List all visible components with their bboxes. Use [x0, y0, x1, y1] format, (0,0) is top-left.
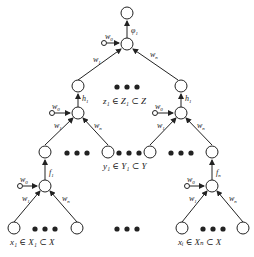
mid-left-bias-node [50, 111, 55, 116]
label-mid-left-w0: w0 [52, 102, 60, 112]
label-mid-right-w1: w1 [157, 121, 165, 131]
ellipsis-bottom-center [114, 226, 139, 231]
label-top-w0: w0 [105, 32, 113, 42]
ellipsis-mid-center [116, 150, 141, 155]
ellipsis-mid-right [168, 150, 193, 155]
ellipsis-bottom-left [32, 226, 57, 231]
l3-node-4 [206, 146, 218, 158]
top-bias-node [102, 41, 107, 46]
label-bottom-left-wn: wn [62, 194, 70, 204]
label-z-set: z₁ ∈ Z₁ ⊂ Z [102, 96, 147, 106]
label-y-set: y₁ ∈ Y₁ ⊂ Y [102, 161, 147, 171]
label-mid-left-wn: wn [94, 121, 102, 131]
input-node-right-2 [237, 222, 249, 234]
label-mid-right-wn: wn [197, 121, 205, 131]
mid-right-neuron [175, 107, 187, 119]
ellipsis-top [114, 84, 139, 89]
top-neuron [121, 38, 133, 50]
ellipsis-bottom-right [200, 226, 225, 231]
bottom-right-bias-node [185, 184, 190, 189]
input-node-right-1 [176, 222, 188, 234]
bottom-left-bias-node [18, 184, 23, 189]
label-bottom-left-w0: w0 [20, 175, 28, 185]
label-bottom-right-f: fn [216, 168, 221, 178]
network-diagram: φ1 w0 w1 wn h1 w0 w1 wn h1 w0 w1 wn f1 w… [0, 0, 254, 257]
ellipsis-mid-left [64, 150, 89, 155]
label-mid-left-w1: w1 [54, 121, 62, 131]
l3-node-1 [39, 146, 51, 158]
mid-right-output-node [175, 80, 187, 92]
bottom-right-neuron [206, 180, 218, 192]
label-top-w1: w1 [93, 55, 101, 65]
mid-right-bias-node [153, 111, 158, 116]
mid-left-output-node [72, 80, 84, 92]
bottom-left-neuron [39, 180, 51, 192]
mid-left-neuron [72, 107, 84, 119]
label-bottom-left-w1: w1 [22, 194, 30, 204]
label-bottom-right-wn: wn [229, 194, 237, 204]
l3-node-3 [144, 146, 156, 158]
label-mid-left-h: h1 [82, 94, 89, 104]
label-bottom-right-w0: w0 [187, 175, 195, 185]
input-node-left-2 [71, 222, 83, 234]
label-phi: φ1 [131, 26, 138, 36]
l3-node-2 [102, 146, 114, 158]
label-bottom-right-w1: w1 [189, 194, 197, 204]
label-top-wn: wn [150, 50, 158, 60]
label-mid-right-h: h1 [185, 94, 192, 104]
input-node-left-1 [8, 222, 20, 234]
label-mid-right-w0: w0 [155, 102, 163, 112]
output-node [121, 7, 133, 19]
label-x-set-right: xᵢ ∈ Xₙ ⊂ X [177, 237, 222, 247]
label-bottom-left-f: f1 [49, 168, 54, 178]
label-x-set-left: x₁ ∈ X₁ ⊂ X [9, 237, 55, 247]
